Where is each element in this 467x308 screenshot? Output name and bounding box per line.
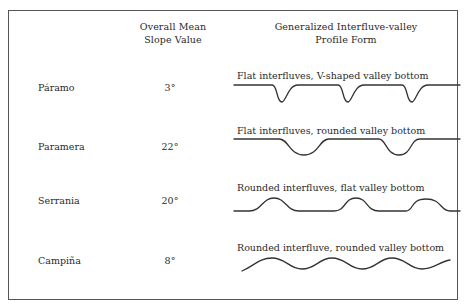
header-slope-line-2: Slope Value <box>118 33 228 46</box>
header-slope-value: Overall Mean Slope Value <box>118 20 228 46</box>
landform-name: Páramo <box>38 82 75 94</box>
profile-wavy-diagram <box>234 254 460 276</box>
header-profile-line-1: Generalized Interfluve-valley <box>236 20 456 33</box>
profile-rounded-valley-diagram <box>234 134 460 160</box>
landform-name: Campiña <box>38 255 81 267</box>
header-profile-line-2: Profile Form <box>236 33 456 46</box>
landform-name: Serrania <box>38 195 80 207</box>
slope-value: 8° <box>150 255 190 267</box>
header-slope-line-1: Overall Mean <box>118 20 228 33</box>
landform-name: Paramera <box>38 141 85 153</box>
header-profile-form: Generalized Interfluve-valley Profile Fo… <box>236 20 456 46</box>
profile-flat-valley-diagram <box>234 193 460 217</box>
profile-v-valley-diagram <box>234 80 460 106</box>
slope-value: 20° <box>150 195 190 207</box>
profile-caption: Rounded interfluve, rounded valley botto… <box>237 242 444 254</box>
slope-value: 22° <box>150 141 190 153</box>
slope-value: 3° <box>150 82 190 94</box>
